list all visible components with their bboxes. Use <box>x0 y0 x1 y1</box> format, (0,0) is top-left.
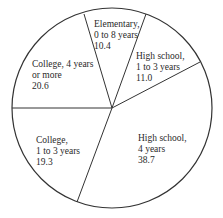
slice-label-hs-4: High school, 4 years 38.7 <box>138 133 187 166</box>
slice-label-elementary: Elementary, 0 to 8 years 10.4 <box>94 19 140 52</box>
label-line: or more <box>32 70 93 81</box>
label-line: 4 years <box>138 144 187 155</box>
label-line: Elementary, <box>94 19 140 30</box>
slice-label-college-4-plus: College, 4 years or more 20.6 <box>32 59 93 92</box>
slice-value: 11.0 <box>136 73 185 84</box>
slice-label-hs-1-3: High school, 1 to 3 years 11.0 <box>136 51 185 84</box>
label-line: 1 to 3 years <box>36 146 80 157</box>
slice-value: 20.6 <box>32 81 93 92</box>
label-line: High school, <box>138 133 187 144</box>
slice-value: 19.3 <box>36 157 80 168</box>
label-line: College, 4 years <box>32 59 93 70</box>
label-line: 1 to 3 years <box>136 62 185 73</box>
label-line: High school, <box>136 51 185 62</box>
label-line: 0 to 8 years <box>94 30 140 41</box>
slice-value: 38.7 <box>138 155 187 166</box>
label-line: College, <box>36 135 80 146</box>
slice-value: 10.4 <box>94 41 140 52</box>
slice-label-college-1-3: College, 1 to 3 years 19.3 <box>36 135 80 168</box>
